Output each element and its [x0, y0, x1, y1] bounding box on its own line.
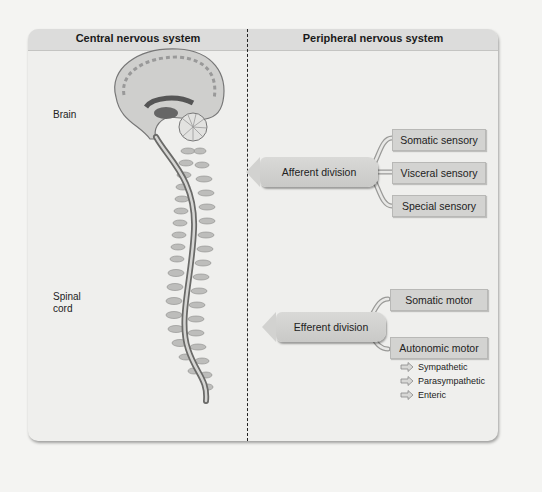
visceral-sensory-box: Visceral sensory [392, 162, 486, 184]
arrow-right-icon [400, 390, 414, 400]
sympathetic-label: Sympathetic [418, 362, 468, 372]
parasympathetic-item: Parasympathetic [400, 374, 485, 388]
sympathetic-item: Sympathetic [400, 360, 485, 374]
enteric-label: Enteric [418, 390, 446, 400]
autonomic-motor-box: Autonomic motor [390, 337, 488, 359]
arrow-right-icon [400, 376, 414, 386]
autonomic-subdivisions: Sympathetic Parasympathetic Enteric [400, 360, 485, 402]
enteric-item: Enteric [400, 388, 485, 402]
diagram-panel: Central nervous system Peripheral nervou… [28, 29, 498, 441]
arrow-right-icon [400, 362, 414, 372]
efferent-division: Efferent division [276, 312, 386, 342]
somatic-sensory-box: Somatic sensory [392, 129, 486, 151]
special-sensory-box: Special sensory [392, 195, 486, 217]
somatic-motor-box: Somatic motor [390, 289, 488, 311]
afferent-division: Afferent division [260, 157, 378, 187]
parasympathetic-label: Parasympathetic [418, 376, 485, 386]
